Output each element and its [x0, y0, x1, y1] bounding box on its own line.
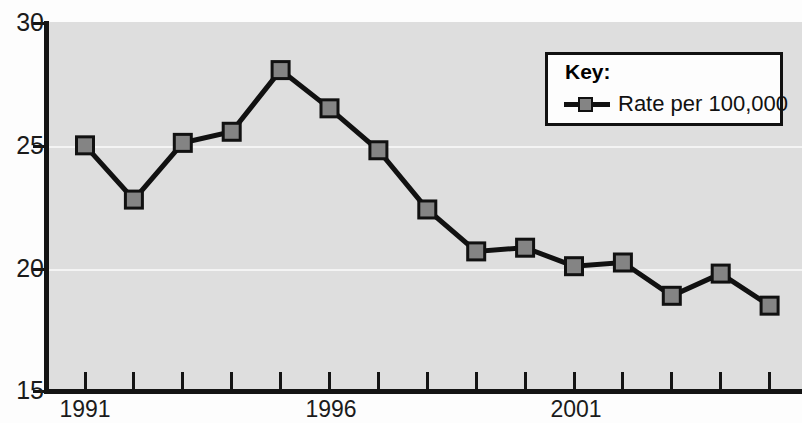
legend-box: Key: Rate per 100,000 — [545, 52, 783, 126]
data-point-1991 — [77, 137, 94, 154]
legend-entry-rate: Rate per 100,000 — [564, 91, 788, 117]
data-point-1998 — [419, 201, 436, 218]
legend-entry-label: Rate per 100,000 — [618, 91, 788, 117]
data-point-1997 — [370, 142, 387, 159]
data-point-2000 — [517, 239, 534, 256]
data-point-2002 — [614, 254, 631, 271]
chart-page: 30 25 20 15 1991 1996 2001 Key: Rate per… — [0, 0, 802, 423]
data-point-1999 — [468, 243, 485, 260]
data-point-1995 — [272, 62, 289, 79]
data-point-2004 — [712, 265, 729, 282]
legend-marker-icon — [564, 94, 610, 114]
data-point-1993 — [174, 134, 191, 151]
data-point-2005 — [761, 297, 778, 314]
data-point-1996 — [321, 100, 338, 117]
legend-title: Key: — [565, 60, 611, 84]
data-point-2003 — [663, 287, 680, 304]
data-point-1994 — [223, 123, 240, 140]
data-point-2001 — [566, 258, 583, 275]
data-point-1992 — [125, 191, 142, 208]
